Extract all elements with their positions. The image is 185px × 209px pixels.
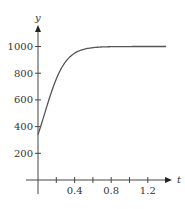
x-tick-label: 1.2 [140, 185, 156, 196]
ticks [35, 47, 148, 184]
y-tick-label: 600 [14, 94, 33, 105]
y-tick-label: 1000 [8, 41, 33, 52]
y-axis-label: y [34, 12, 41, 23]
y-axis-arrow-icon [35, 25, 41, 32]
x-axis-arrow-icon [165, 177, 172, 183]
x-tick-label: 0.8 [103, 185, 119, 196]
axes [26, 25, 172, 194]
y-tick-label: 800 [14, 68, 33, 79]
chart: 0.40.81.22004006008001000 y t [0, 0, 185, 209]
x-tick-label: 0.4 [67, 185, 83, 196]
y-tick-label: 400 [14, 121, 33, 132]
data-curve [38, 47, 166, 135]
y-tick-label: 200 [14, 148, 33, 159]
tick-labels: 0.40.81.22004006008001000 [8, 41, 156, 196]
x-axis-label: t [177, 174, 182, 185]
